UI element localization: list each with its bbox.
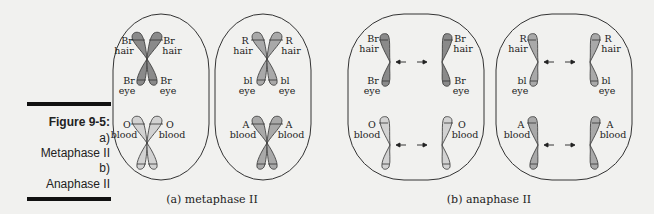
label-blood: blood xyxy=(600,129,627,140)
chromatid-blood-right xyxy=(442,117,453,170)
label-eye: eye xyxy=(599,85,616,96)
chromatid-blood-right xyxy=(590,117,601,170)
label-eye: eye xyxy=(512,85,529,96)
label-blood: blood xyxy=(111,129,138,140)
label-blood: blood xyxy=(354,129,381,140)
label-hair: hair xyxy=(601,43,621,54)
label-hair: hair xyxy=(453,43,473,54)
chromatid-hair-eye-left xyxy=(527,34,538,87)
anaphase-cell-2: R hair R hair bl eye bl eye A blood A bl… xyxy=(496,14,632,180)
label-blood: blood xyxy=(504,129,531,140)
label-eye: eye xyxy=(160,85,177,96)
chromatid-hair-eye-right xyxy=(590,34,601,87)
arrow-icon-group xyxy=(396,60,427,147)
caption-anaphase: (b) anaphase II xyxy=(447,193,531,206)
meiosis-diagram: Br hair Br hair Br eye Br eye O blood O … xyxy=(0,0,654,214)
label-eye: eye xyxy=(119,85,136,96)
chromosome-hair-eye xyxy=(251,32,283,85)
label-eye: eye xyxy=(279,85,296,96)
chromatid-hair-eye-left xyxy=(379,34,390,87)
label-hair: hair xyxy=(114,45,134,56)
label-eye: eye xyxy=(364,85,381,96)
label-blood: blood xyxy=(159,129,186,140)
label-hair: hair xyxy=(281,45,301,56)
chromatid-blood-left xyxy=(527,117,538,170)
anaphase-cell-1: Br hair Br hair Br eye Br eye O blood O … xyxy=(348,14,484,180)
label-blood: blood xyxy=(230,129,257,140)
label-hair: hair xyxy=(233,45,253,56)
chromatid-hair-eye-right xyxy=(442,34,453,87)
chromatid-blood-left xyxy=(379,117,390,170)
label-eye: eye xyxy=(453,85,470,96)
label-hair: hair xyxy=(508,43,528,54)
label-blood: blood xyxy=(278,129,305,140)
chromosome-blood xyxy=(251,116,283,169)
arrow-icon-group xyxy=(544,60,575,147)
label-eye: eye xyxy=(239,85,256,96)
metaphase-cell-1: Br hair Br hair Br eye Br eye O blood O … xyxy=(111,14,209,180)
caption-metaphase: (a) metaphase II xyxy=(166,193,258,206)
label-blood: blood xyxy=(452,129,479,140)
chromosome-blood xyxy=(131,116,163,169)
label-hair: hair xyxy=(162,45,182,56)
metaphase-cell-2: R hair R hair bl eye bl eye A blood A bl… xyxy=(215,14,311,180)
label-hair: hair xyxy=(359,43,379,54)
chromosome-hair-eye xyxy=(131,32,163,85)
